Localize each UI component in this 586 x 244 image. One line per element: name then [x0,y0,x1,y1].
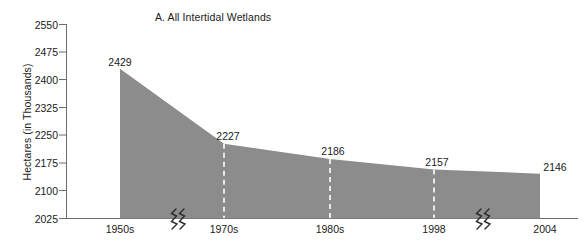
data-label-1998: 2157 [425,157,448,168]
data-label-2004: 2146 [543,162,566,173]
data-label-1970s: 2227 [216,131,239,142]
x-tick-label-2004: 2004 [533,224,556,235]
x-tick-label-1950s: 1950s [106,224,135,235]
y-axis-ticks [59,25,67,219]
x-tick-label-1970s: 1970s [210,224,239,235]
data-label-1980s: 2186 [321,146,344,157]
x-tick-label-1998: 1998 [422,224,445,235]
data-label-1950s: 2429 [108,57,131,68]
x-tick-label-1980s: 1980s [316,224,345,235]
chart-container: A. All Intertidal Wetlands Hectares (in … [0,0,586,244]
plot-area [0,0,586,244]
